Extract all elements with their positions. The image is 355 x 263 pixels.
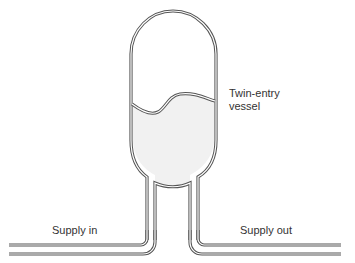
diagram-canvas: Twin-entry vessel Supply in Supply out xyxy=(0,0,355,263)
supply-out-label: Supply out xyxy=(240,224,292,237)
vessel-label-line1: Twin-entry xyxy=(229,87,280,100)
vessel-label: Twin-entry vessel xyxy=(229,87,280,113)
supply-in-label: Supply in xyxy=(52,224,97,237)
vessel-label-line2: vessel xyxy=(229,100,280,113)
neck-divider xyxy=(155,183,190,240)
